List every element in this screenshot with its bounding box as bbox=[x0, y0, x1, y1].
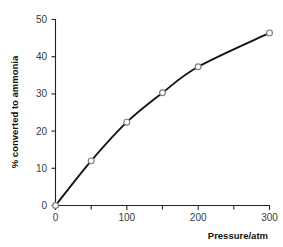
y-tick-label: 20 bbox=[36, 126, 48, 137]
x-tick-label: 100 bbox=[118, 212, 135, 223]
data-point bbox=[124, 119, 130, 125]
plot-area: 0 10 20 30 40 50 0 100 200 300 bbox=[0, 0, 283, 247]
y-tick-label: 30 bbox=[36, 88, 48, 99]
x-axis-ticks-minor bbox=[91, 206, 234, 210]
data-point bbox=[267, 30, 273, 36]
x-tick-label: 200 bbox=[190, 212, 207, 223]
chart-figure: 0 10 20 30 40 50 0 100 200 300 bbox=[0, 0, 283, 247]
data-point bbox=[160, 90, 166, 96]
data-point bbox=[195, 64, 201, 70]
y-axis-title: % converted to ammonia bbox=[9, 55, 20, 168]
y-tick-label: 50 bbox=[36, 14, 48, 25]
y-tick-label: 0 bbox=[41, 200, 47, 211]
y-tick-label: 40 bbox=[36, 51, 48, 62]
x-axis-title: Pressure/atm bbox=[208, 230, 268, 241]
y-tick-label: 10 bbox=[36, 163, 48, 174]
y-axis-ticks bbox=[52, 20, 56, 206]
data-point bbox=[53, 203, 59, 209]
data-markers bbox=[53, 30, 273, 208]
x-tick-label: 300 bbox=[261, 212, 278, 223]
x-axis-tick-labels: 0 100 200 300 bbox=[53, 212, 279, 223]
data-point bbox=[88, 158, 94, 164]
y-axis-tick-labels: 0 10 20 30 40 50 bbox=[36, 14, 48, 211]
data-curve bbox=[56, 33, 270, 206]
x-tick-label: 0 bbox=[53, 212, 59, 223]
